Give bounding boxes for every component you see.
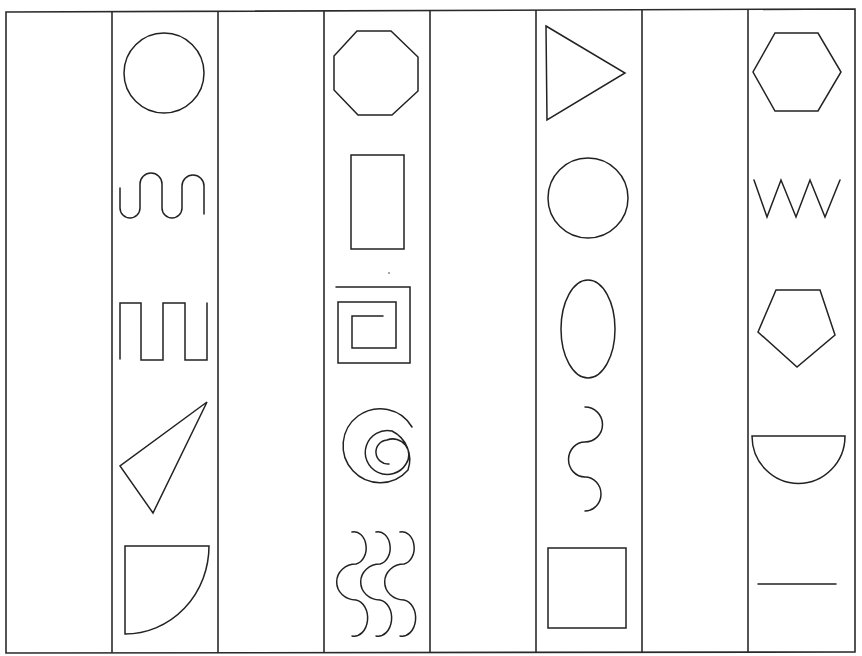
- hexagon-shape: [753, 33, 841, 111]
- pentagon-shape: [758, 290, 835, 367]
- scalene-triangle-shape: [120, 402, 207, 513]
- column-6-shapes: [546, 26, 628, 628]
- oval-shape: [561, 280, 615, 378]
- quarter-circle-shape: [125, 546, 209, 634]
- worksheet-canvas: [0, 0, 862, 656]
- scan-speck: [388, 272, 390, 274]
- triple-wave-shape: [337, 532, 416, 636]
- square-spiral-shape: [336, 287, 410, 363]
- circle-shape: [548, 158, 628, 238]
- s-curve-shape: [569, 407, 603, 511]
- zigzag-shape: [754, 180, 840, 217]
- rectangle-shape: [351, 155, 404, 249]
- meander-wave-shape: [120, 173, 204, 218]
- square-shape: [548, 548, 626, 628]
- column-4-shapes: [334, 31, 418, 636]
- column-2-shapes: [120, 33, 209, 634]
- right-pointing-triangle-shape: [546, 26, 625, 120]
- circle-shape: [124, 33, 204, 113]
- worksheet: [0, 0, 862, 656]
- octagon-shape: [334, 31, 418, 115]
- semicircle-shape: [752, 436, 845, 484]
- square-wave-shape: [120, 303, 207, 360]
- round-spiral-shape: [343, 409, 412, 483]
- column-8-shapes: [752, 33, 845, 584]
